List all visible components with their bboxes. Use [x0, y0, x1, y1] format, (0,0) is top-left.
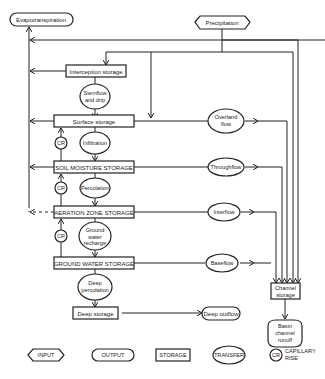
basin-runoff-line3: runoff	[278, 337, 293, 343]
output-deep-outflow: Deep outflow	[202, 307, 240, 320]
deep-percolation-line1: Deep	[88, 280, 101, 286]
evapotranspiration-label: Evapotranspiration	[16, 17, 66, 23]
legend-cr-label: CR	[272, 352, 280, 358]
deep-outflow-label: Deep outflow	[203, 311, 239, 317]
legend-capillary-line2: RISE	[285, 355, 298, 361]
storage-soil-moisture: SOIL MOISTURE STORAGE	[54, 161, 134, 173]
transfer-baseflow: Baseflow	[206, 254, 238, 272]
aeration-label: AERATION ZONE STORAGE	[54, 210, 133, 216]
deep-percolation-line2: percolation	[81, 287, 108, 293]
legend: INPUT OUTPUT STORAGE TRANSFER CR CAPILLA…	[28, 346, 316, 364]
infiltration-label: Infiltration	[83, 140, 107, 146]
legend-transfer-label: TRANSFER	[214, 352, 244, 358]
cr-label-3: CR	[57, 233, 65, 239]
interflow-label: Interflow	[213, 209, 235, 215]
output-basin-runoff: Basin channel runoff	[268, 320, 302, 347]
transfer-throughflow: Throughflow	[208, 158, 244, 176]
cr-label-2: CR	[57, 185, 65, 191]
overland-line1: Overland	[215, 114, 238, 120]
channel-line1: Channel	[275, 285, 296, 291]
storage-surface: Surface storage	[54, 115, 134, 127]
ground-water-label: GROUND WATER STORAGE	[54, 261, 134, 267]
storage-ground-water: GROUND WATER STORAGE	[54, 257, 134, 269]
legend-input-label: INPUT	[38, 352, 55, 358]
legend-output-label: OUTPUT	[102, 352, 126, 358]
gw-recharge-line2: water	[87, 234, 102, 240]
storage-aeration: AERATION ZONE STORAGE	[54, 206, 134, 218]
transfer-percolation: Percolation	[80, 178, 110, 198]
capillary-rise-2: CR	[55, 182, 67, 194]
transfer-deep-percolation: Deep percolation	[78, 274, 112, 300]
baseflow-label: Baseflow	[211, 260, 235, 266]
soil-moisture-label: SOIL MOISTURE STORAGE	[55, 165, 133, 171]
transfer-overland: Overland flow	[208, 109, 244, 133]
legend-cr: CR CAPILLARY RISE	[270, 348, 316, 361]
gw-recharge-line3: recharge	[84, 240, 106, 246]
transfer-interflow: Interflow	[208, 203, 240, 221]
storage-interception: Interception storage	[66, 65, 126, 77]
overland-line2: flow	[221, 121, 232, 127]
percolation-label: Percolation	[81, 185, 109, 191]
capillary-rise-3: CR	[55, 230, 67, 242]
basin-runoff-line2: channel	[275, 330, 295, 336]
transfer-gw-recharge: Ground water recharge	[79, 222, 111, 250]
input-precipitation: Precipitation	[195, 16, 250, 29]
transfer-stemflow: Stemflow and drip	[80, 84, 110, 109]
channel-line2: storage	[276, 292, 295, 298]
storage-deep: Deep storage	[73, 307, 118, 319]
cr-label-1: CR	[57, 140, 65, 146]
legend-capillary-line1: CAPILLARY	[285, 348, 316, 354]
gw-recharge-line1: Ground	[86, 227, 105, 233]
surface-label: Surface storage	[73, 119, 116, 125]
stemflow-line1: Stemflow	[83, 90, 107, 96]
legend-storage: STORAGE	[156, 349, 190, 361]
interception-label: Interception storage	[69, 69, 123, 75]
storage-channel: Channel storage	[271, 283, 300, 299]
capillary-rise-1: CR	[55, 137, 67, 149]
legend-transfer: TRANSFER	[213, 346, 245, 364]
output-evapotranspiration: Evapotranspiration	[10, 13, 73, 26]
throughflow-label: Throughflow	[211, 164, 243, 170]
basin-runoff-line1: Basin	[278, 323, 292, 329]
transfer-infiltration: Infiltration	[80, 132, 110, 154]
hydrological-cycle-diagram: Precipitation Evapotranspiration Deep ou…	[0, 0, 325, 379]
legend-output: OUTPUT	[92, 349, 134, 361]
deep-storage-label: Deep storage	[77, 311, 114, 317]
legend-input: INPUT	[28, 349, 64, 361]
legend-storage-label: STORAGE	[159, 352, 187, 358]
stemflow-line2: and drip	[85, 97, 105, 103]
precipitation-label: Precipitation	[205, 20, 238, 26]
